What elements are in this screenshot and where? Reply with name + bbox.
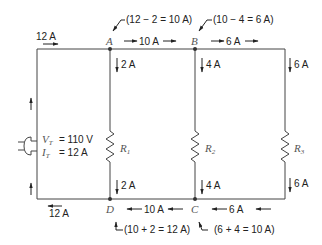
node-b-dot: [193, 47, 197, 51]
source-current-value: = 12 A: [59, 147, 88, 158]
node-b-label: B: [191, 35, 198, 47]
node-d-dot: [108, 197, 112, 201]
r2-bottom-current: 4 A: [206, 180, 221, 191]
a-to-b-current: 10 A: [139, 36, 159, 47]
r3-to-c-current: 6 A: [229, 204, 244, 215]
source-voltage-value: = 110 V: [59, 134, 93, 145]
annotation-pointer-b: [199, 20, 212, 31]
c-to-d-current: 10 A: [144, 204, 164, 215]
r1-top-current: 2 A: [121, 59, 136, 70]
r1-label: R1: [119, 142, 130, 156]
annotation-pointer-c: [199, 222, 208, 230]
top-left-current: 12 A: [36, 31, 56, 42]
annotation-pointer-d: [116, 222, 123, 230]
circuit-wires: [37, 49, 285, 199]
r1-bottom-current: 2 A: [121, 180, 136, 191]
resistor-r3-symbol: [281, 127, 289, 167]
resistor-r2-symbol: [191, 127, 199, 167]
node-c-dot: [193, 197, 197, 201]
bottom-left-current: 12 A: [49, 208, 69, 219]
plug-icon: [18, 137, 37, 155]
node-a-dot: [108, 47, 112, 51]
node-c-annotation: (6 + 4 = 10 A): [214, 224, 275, 235]
r3-bottom-current: 6 A: [294, 178, 309, 189]
r3-label: R3: [293, 142, 305, 156]
r2-top-current: 4 A: [206, 59, 221, 70]
source-current-label: IT: [41, 146, 51, 160]
r3-top-current: 6 A: [294, 59, 309, 70]
node-a-label: A: [105, 35, 113, 47]
resistor-r1-symbol: [106, 127, 114, 167]
node-d-label: D: [105, 203, 114, 215]
node-c-label: C: [191, 203, 199, 215]
b-to-r3-current: 6 A: [226, 36, 241, 47]
annotation-pointer-a: [113, 20, 125, 31]
r2-label: R2: [204, 142, 216, 156]
circuit-diagram: VT = 110 V IT = 12 A 12 A A 10 A B 6 A (…: [0, 0, 322, 245]
node-a-annotation: (12 − 2 = 10 A): [126, 14, 192, 25]
source-voltage-label: VT: [42, 133, 54, 147]
node-d-annotation: (10 + 2 = 12 A): [124, 224, 190, 235]
node-b-annotation: (10 − 4 = 6 A): [213, 14, 274, 25]
